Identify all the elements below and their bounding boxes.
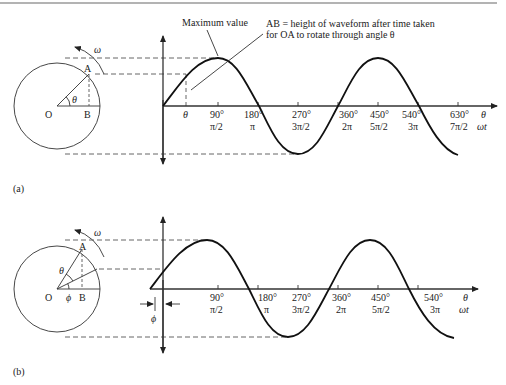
label-phi-b: ϕ: [66, 292, 71, 303]
label-omega-a: ω: [94, 44, 101, 55]
svg-text:360°: 360°: [332, 292, 351, 303]
svg-text:450°: 450°: [370, 109, 389, 120]
theta-arc-b: [66, 274, 73, 281]
phase-label-phi: ϕ: [151, 313, 156, 324]
svg-text:3π: 3π: [408, 121, 418, 132]
svg-text:5π/2: 5π/2: [370, 121, 388, 132]
svg-text:360°: 360°: [339, 109, 358, 120]
svg-text:450°: 450°: [371, 292, 390, 303]
svg-text:π/2: π/2: [210, 304, 223, 315]
axis-end-theta-a: θ: [481, 109, 486, 120]
annotation-max-value: Maximum value: [182, 17, 248, 28]
label-A-a: A: [84, 63, 92, 74]
annotation-ab-line2: for OA to rotate through angle θ: [266, 29, 395, 40]
axis-end-omegat-b: ωt: [459, 304, 469, 315]
svg-text:540°: 540°: [424, 292, 443, 303]
label-B-a: B: [84, 109, 91, 120]
label-O-a: O: [45, 109, 52, 120]
svg-text:3π/2: 3π/2: [292, 121, 310, 132]
label-theta-b: θ: [59, 265, 64, 276]
svg-text:2π: 2π: [342, 121, 352, 132]
tick-theta-a: θ: [183, 109, 188, 120]
svg-text:180°: 180°: [258, 292, 277, 303]
panel-b: O B A θ ϕ ω ϕ 90° π/2 180° π: [13, 217, 478, 378]
svg-text:90°: 90°: [210, 109, 224, 120]
panel-label-b: (b): [13, 366, 25, 378]
tick-labels-a: 90° π/2 180° π 270° 3π/2 360° 2π 450° 5π…: [210, 109, 469, 132]
svg-text:3π/2: 3π/2: [292, 304, 310, 315]
axis-end-omegat-a: ωt: [477, 121, 487, 132]
svg-text:3π: 3π: [430, 304, 440, 315]
svg-text:π: π: [264, 304, 269, 315]
theta-arc-a: [66, 97, 70, 106]
phi-arc-b: [68, 284, 69, 289]
panel-a: O B A θ ω Maximum value AB = height o: [13, 17, 497, 195]
annotation-ab-line1: AB = height of waveform after time taken: [266, 18, 435, 29]
svg-text:90°: 90°: [210, 292, 224, 303]
label-B-b: B: [79, 292, 86, 303]
label-A-b: A: [79, 241, 87, 252]
svg-text:2π: 2π: [336, 304, 346, 315]
svg-text:270°: 270°: [292, 292, 311, 303]
label-omega-b: ω: [94, 227, 101, 238]
svg-text:270°: 270°: [292, 109, 311, 120]
svg-text:π: π: [250, 121, 255, 132]
svg-text:7π/2: 7π/2: [450, 121, 468, 132]
svg-text:630°: 630°: [450, 109, 469, 120]
label-theta-a: θ: [72, 94, 77, 105]
label-O-b: O: [45, 292, 52, 303]
svg-text:5π/2: 5π/2: [372, 304, 390, 315]
svg-text:180°: 180°: [244, 109, 263, 120]
svg-text:540°: 540°: [402, 109, 421, 120]
phasor-waveform-diagram: O B A θ ω Maximum value AB = height o: [0, 0, 506, 385]
axis-end-theta-b: θ: [463, 292, 468, 303]
leader-max-a: [207, 30, 218, 56]
panel-label-a: (a): [13, 183, 24, 195]
svg-text:π/2: π/2: [210, 121, 223, 132]
